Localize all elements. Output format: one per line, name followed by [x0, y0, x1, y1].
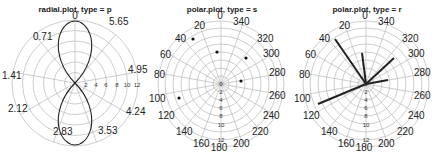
svg-text:240: 240	[408, 110, 425, 121]
svg-text:120: 120	[303, 110, 320, 121]
radial-plot-p-svg: radial.plot, type = p 0 5.65 4.95 4.24 3…	[0, 0, 150, 155]
angle-labels: 0 340 320 300 280 260 240 220 200 180 16…	[295, 10, 431, 153]
svg-text:180: 180	[356, 142, 373, 153]
svg-text:10: 10	[124, 82, 131, 88]
svg-text:2: 2	[84, 82, 88, 88]
polar-plot-s: polar.plot, type = s	[148, 0, 295, 155]
svg-text:10: 10	[218, 122, 225, 128]
svg-text:160: 160	[338, 138, 355, 149]
svg-text:60: 60	[305, 49, 317, 60]
svg-text:40: 40	[319, 33, 331, 44]
svg-text:180: 180	[211, 142, 228, 153]
svg-text:4: 4	[94, 82, 98, 88]
svg-text:260: 260	[414, 90, 431, 101]
svg-text:80: 80	[154, 69, 166, 80]
scatter-points	[177, 37, 247, 99]
svg-text:0: 0	[217, 10, 223, 21]
svg-text:100: 100	[149, 93, 166, 104]
svg-text:140: 140	[321, 126, 338, 137]
svg-text:0.71: 0.71	[33, 31, 53, 42]
svg-text:260: 260	[269, 90, 286, 101]
svg-text:220: 220	[252, 126, 269, 137]
svg-text:120: 120	[158, 110, 175, 121]
polar-plot-r: polar.plot, type = r	[295, 0, 442, 155]
svg-text:20: 20	[339, 20, 351, 31]
svg-text:200: 200	[233, 138, 250, 149]
svg-text:0: 0	[72, 10, 78, 21]
svg-text:4.24: 4.24	[126, 106, 146, 117]
radial-labels: 2 4 6 8 10 12	[84, 82, 141, 88]
polar-plot-s-svg: polar.plot, type = s	[148, 0, 295, 155]
svg-text:10: 10	[363, 122, 370, 128]
svg-text:12: 12	[218, 137, 225, 143]
svg-text:220: 220	[397, 126, 414, 137]
svg-text:300: 300	[263, 48, 280, 59]
svg-text:320: 320	[257, 33, 274, 44]
svg-text:1.41: 1.41	[2, 70, 22, 81]
svg-text:100: 100	[295, 93, 311, 104]
svg-text:300: 300	[408, 48, 425, 59]
svg-text:12: 12	[363, 137, 370, 143]
svg-text:6: 6	[104, 82, 108, 88]
svg-text:280: 280	[269, 67, 286, 78]
svg-text:5.65: 5.65	[109, 16, 129, 27]
svg-text:2.83: 2.83	[53, 126, 73, 137]
svg-text:340: 340	[378, 16, 395, 27]
svg-text:240: 240	[263, 110, 280, 121]
svg-text:160: 160	[193, 138, 210, 149]
radial-plot-p: radial.plot, type = p 0 5.65 4.95 4.24 3…	[0, 0, 150, 155]
svg-text:80: 80	[299, 69, 311, 80]
polar-plot-r-svg: polar.plot, type = r	[295, 0, 442, 155]
svg-text:200: 200	[378, 138, 395, 149]
svg-text:140: 140	[176, 126, 193, 137]
svg-text:0: 0	[362, 10, 368, 21]
svg-text:20: 20	[194, 20, 206, 31]
svg-text:8: 8	[115, 82, 119, 88]
svg-text:280: 280	[414, 67, 431, 78]
svg-text:60: 60	[160, 49, 172, 60]
svg-text:2.12: 2.12	[8, 103, 28, 114]
svg-text:320: 320	[402, 33, 419, 44]
svg-text:340: 340	[233, 16, 250, 27]
svg-text:40: 40	[175, 33, 187, 44]
svg-text:12: 12	[134, 82, 141, 88]
svg-text:3.53: 3.53	[98, 125, 118, 136]
svg-text:4.95: 4.95	[128, 64, 148, 75]
